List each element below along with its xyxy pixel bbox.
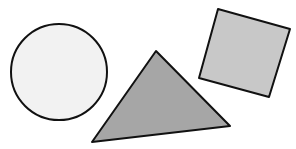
shapes-diagram: circle triangle square — [0, 0, 296, 149]
circle-shape — [11, 24, 107, 120]
shapes-svg — [0, 0, 296, 149]
square-shape — [199, 9, 290, 97]
